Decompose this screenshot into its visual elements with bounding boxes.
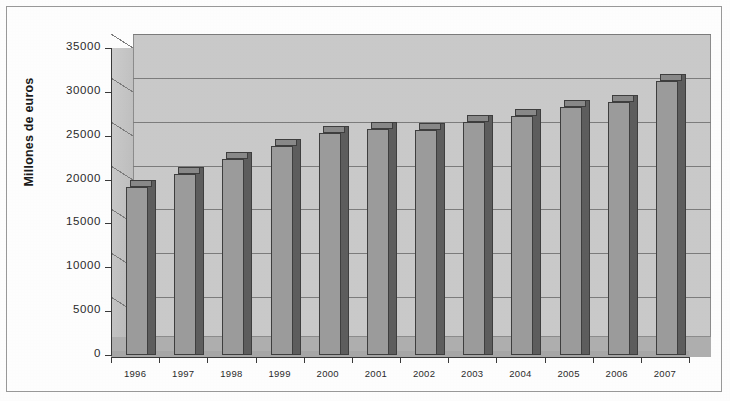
bar-side-face [532, 109, 541, 355]
bar-top-face [419, 123, 441, 130]
bar-side-face [340, 126, 349, 355]
bar-top-face [612, 95, 634, 102]
bar-front-face [560, 107, 582, 355]
bar-side-face [629, 95, 638, 355]
bar-side-face [484, 115, 493, 355]
x-axis-tick [304, 357, 305, 363]
bar-front-face [415, 130, 437, 355]
x-axis-tick [256, 357, 257, 363]
x-axis-tick [545, 357, 546, 363]
bar [463, 122, 485, 355]
bar [174, 174, 196, 355]
y-axis-tick-label: 5000 [31, 303, 101, 315]
gridline [133, 78, 711, 79]
bar-top-face [564, 100, 586, 107]
gridline-connector [111, 34, 133, 48]
x-axis-tick-label: 2007 [642, 368, 688, 379]
chart-plot-area: 05000100001500020000250003000035000 1996… [7, 7, 723, 393]
y-axis-tick [105, 355, 112, 356]
bar-top-face [515, 109, 537, 116]
x-axis-tick-label: 2006 [594, 368, 640, 379]
bar-top-face [275, 139, 297, 146]
bar-top-face [226, 152, 248, 159]
x-axis-tick [496, 357, 497, 363]
bar-side-face [243, 152, 252, 355]
y-axis-tick [105, 180, 112, 181]
y-axis-line [111, 48, 112, 355]
bar-top-face [371, 122, 393, 129]
bar-front-face [222, 159, 244, 355]
x-axis-tick [448, 357, 449, 363]
y-axis-tick [105, 136, 112, 137]
x-axis-tick-label: 1997 [160, 368, 206, 379]
bar-front-face [174, 174, 196, 355]
x-axis-tick [400, 357, 401, 363]
bar-side-face [436, 123, 445, 355]
bar-front-face [126, 187, 148, 355]
x-axis-tick-label: 2000 [305, 368, 351, 379]
x-axis-tick-label: 1996 [112, 368, 158, 379]
x-axis-tick [641, 357, 642, 363]
bar [511, 116, 533, 355]
gridline [133, 34, 711, 35]
bar-side-face [388, 122, 397, 355]
bar [560, 107, 582, 355]
gridline-connector [111, 122, 133, 136]
bar [271, 146, 293, 355]
x-axis-tick [593, 357, 594, 363]
x-axis-tick [159, 357, 160, 363]
x-axis-tick-label: 2002 [401, 368, 447, 379]
bar-front-face [319, 133, 341, 355]
y-axis-title: Millones de euros [22, 62, 36, 202]
bar-front-face [367, 129, 389, 355]
y-axis-tick-label: 15000 [31, 215, 101, 227]
y-axis-tick [105, 311, 112, 312]
bar [608, 102, 630, 355]
x-axis-tick [689, 357, 690, 363]
y-axis-tick-label: 0 [31, 347, 101, 359]
bar [367, 129, 389, 355]
bar-side-face [677, 74, 686, 355]
bar-front-face [656, 81, 678, 355]
bar-top-face [130, 180, 152, 187]
x-axis-tick [207, 357, 208, 363]
y-axis-tick [105, 48, 112, 49]
bar-top-face [467, 115, 489, 122]
bar-front-face [463, 122, 485, 355]
x-axis-tick [352, 357, 353, 363]
y-axis-tick [105, 267, 112, 268]
y-axis-tick-label: 25000 [31, 128, 101, 140]
bar [319, 133, 341, 355]
bar-side-face [581, 100, 590, 355]
bar-side-face [195, 167, 204, 355]
y-axis-tick-label: 35000 [31, 40, 101, 52]
x-axis-tick-label: 2004 [497, 368, 543, 379]
bar-top-face [178, 167, 200, 174]
bar [656, 81, 678, 355]
y-axis-tick-label: 30000 [31, 84, 101, 96]
y-axis-tick [105, 223, 112, 224]
bar-front-face [608, 102, 630, 355]
bar-front-face [511, 116, 533, 355]
bar-side-face [147, 180, 156, 355]
bar-side-face [292, 139, 301, 355]
gridline-connector [111, 78, 133, 92]
bar-top-face [323, 126, 345, 133]
x-axis-tick-label: 2003 [449, 368, 495, 379]
bar-front-face [271, 146, 293, 355]
x-axis-tick-label: 2001 [353, 368, 399, 379]
bar [415, 130, 437, 355]
y-axis-tick-label: 20000 [31, 172, 101, 184]
x-axis-tick-label: 1999 [257, 368, 303, 379]
y-axis-tick-label: 10000 [31, 259, 101, 271]
bar [222, 159, 244, 355]
x-axis-tick [111, 357, 112, 363]
bar [126, 187, 148, 355]
x-axis-tick-label: 2005 [546, 368, 592, 379]
y-axis-tick [105, 92, 112, 93]
chart-frame: 05000100001500020000250003000035000 1996… [6, 6, 722, 392]
x-axis-tick-label: 1998 [208, 368, 254, 379]
bar-top-face [660, 74, 682, 81]
gridline-connector [111, 166, 133, 180]
